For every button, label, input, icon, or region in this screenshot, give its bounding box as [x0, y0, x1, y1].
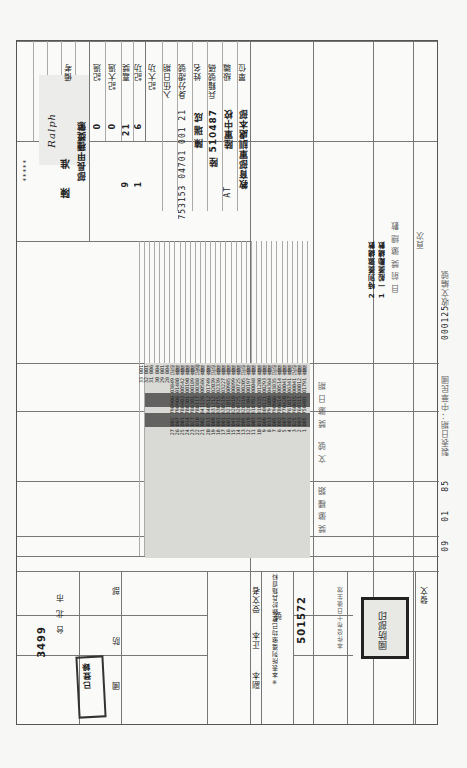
label-major-demerit: 記大過 — [109, 63, 117, 90]
label-serial: 兵籍號碼 — [209, 63, 217, 99]
header-total: 目 前 獎 懲 總 數 — [392, 221, 400, 293]
table-row: 15 045 820910 00899 嘉獎 — [231, 365, 236, 435]
table-row: 12 019 820304 00197 嘉獎 — [246, 365, 251, 435]
table-row: 21 002 841126 00586 嘉獎 — [200, 365, 205, 435]
sender-ministry-3: 國 — [113, 681, 121, 690]
unit-value: 教育部軍訓處本部 — [239, 109, 248, 189]
table-row: 17 001 830519 03227 嘉獎 — [221, 365, 226, 435]
summary-special: 2 特別獎懲總數 — [369, 241, 376, 298]
label-id: 身分證號 — [179, 63, 187, 99]
date-year: 85 — [442, 480, 450, 492]
count-commend: 21 — [123, 123, 131, 136]
label-name: 姓名 — [194, 63, 202, 81]
signature: Ralph — [47, 113, 57, 148]
label-commend: 嘉獎 — [123, 63, 131, 81]
date-month: 01 — [442, 510, 450, 522]
count-major-demerit: 0 — [109, 123, 117, 130]
remark-label: 備考 — [65, 63, 73, 81]
table-row: 10 013 810335 01280 嘉獎 — [257, 365, 262, 435]
approval-text: 陳 准 — [61, 151, 71, 198]
table-row: 16 001 821015 00985 嘉獎 — [226, 365, 231, 435]
table-row: 23 027 780301 00189 嘉獎 — [190, 365, 195, 435]
table-row: 25 001 780403 00542 嘉獎 — [180, 365, 185, 435]
label-merit: 記功 — [135, 63, 143, 81]
table-row: 29 001 — [160, 365, 165, 383]
table-row: 26 007 790906 01480 嘉獎 — [175, 365, 180, 435]
table-row: 4 001 761017 06341 嘉獎 — [287, 365, 292, 432]
count-demerit: 0 — [94, 123, 102, 130]
official-seal: 國防部印 — [361, 597, 409, 659]
label-demerit: 記過 — [94, 63, 102, 81]
rank-value: 陸軍中校 — [224, 109, 233, 149]
table-row: 2 003 760311 00012 嘉獎 — [297, 365, 302, 432]
count-extra: 1 — [135, 181, 143, 188]
copy-label: 副本 — [253, 671, 261, 689]
doc-number: 000125 — [442, 305, 450, 340]
sender-ministry-2: 防 — [113, 636, 121, 645]
recipient-label: 受文者 — [253, 586, 261, 613]
date-stamp: 3499 — [37, 626, 47, 658]
table-row: 3 025 760615 00041 記功 — [292, 365, 297, 432]
scanned-page: 檔號/保存年限 國防部 收文編號 000125 製表日期：中華民國 85 01 … — [0, 0, 467, 768]
dots: ***** — [23, 159, 30, 182]
id-value: 753153 04701 001 21 — [179, 109, 187, 220]
award-record-form: 單位 級職 兵籍號碼 姓名 身分證號 入伍日期 教育部軍訓處本部 陸軍中校 陸 … — [16, 40, 438, 725]
received-tag: 已登錄 — [84, 662, 93, 689]
seal-text: 國防部印 — [378, 610, 387, 650]
doc-number-label: 收文編號 — [442, 270, 450, 306]
count-reprimand: 9 — [122, 181, 130, 188]
footnote: ※本表所列獎懲均已登錄於兵籍資料 — [272, 573, 278, 686]
city: 台北市 — [57, 586, 65, 634]
sender-ministry-1: 部 — [113, 586, 121, 595]
name-value: 陳瑞成 — [194, 109, 203, 148]
label-rank: 級職 — [224, 63, 232, 81]
table-row: 9 009 800121 00293 嘉獎 — [262, 365, 267, 432]
table-row: 14 015 820725 00725 嘉獎 — [236, 365, 241, 435]
table-row: 20 013 840512 01749 嘉獎 — [206, 365, 211, 435]
serial-word: 號 — [275, 611, 283, 620]
header-type: 獎 懲 種 類 — [319, 486, 327, 533]
table-row: 22 010 780117 00388 記過 — [195, 365, 200, 435]
header-date: 獎 懲 日 期 — [319, 381, 327, 428]
table-row: 24 014 780301 00190 嘉獎 — [185, 365, 190, 435]
table-row: 27 002 790906 03849 記功 — [170, 365, 175, 435]
received-stamp: 已登錄 — [75, 655, 106, 718]
table-row: 11 003 810702 00048 嘉獎 — [251, 365, 256, 435]
label-enlist: 入伍日期 — [164, 63, 172, 99]
table-row: 7 005 790906 03835 記功 — [272, 365, 277, 432]
table-row: 1 005 750401 01791 嘉獎 — [302, 365, 307, 432]
sign-authority: 部長甲種獎懲 — [77, 121, 86, 181]
date-day: 09 — [442, 540, 450, 552]
suffix-value: AT — [224, 186, 232, 198]
table-row: 8 013 791009 04364 嘉獎 — [267, 365, 272, 432]
table-row: 6 002 780614 00514 嘉獎 — [277, 365, 282, 432]
table-row: 13 005 820316 00205 記功 — [241, 365, 246, 435]
summary-general: 1 一般獎勵總數 — [379, 241, 386, 298]
table-row: 18 003 830715 02339 嘉獎 — [216, 365, 221, 435]
date-label: 製表日期：中華民國 — [442, 375, 450, 456]
serial-number-value: 501572 — [297, 596, 307, 644]
table-row: 32 001 — [144, 365, 149, 383]
table-row: 31 006 — [149, 365, 154, 383]
header-ref: 文 號 — [319, 441, 327, 463]
label-major-merit: 記大功 — [149, 63, 157, 90]
table-row: 19 009 831212 02039 記功 — [211, 365, 216, 435]
original-label: 正本 — [253, 631, 261, 649]
sender-label: 發文 — [421, 586, 429, 604]
serial-value: 陸 510487 — [209, 109, 218, 167]
effective-note: 本件發布十日後生效 — [337, 586, 343, 649]
table-row: 28 004 — [165, 365, 170, 383]
table-row: 33 001 — [139, 365, 144, 383]
count-merit: 6 — [135, 123, 143, 130]
table-row: 30 004 — [155, 365, 160, 383]
header-page: 頁次 — [417, 231, 425, 249]
table-row: 5 007 770420 00041 嘉獎 — [282, 365, 287, 432]
label-unit: 單位 — [239, 63, 247, 81]
